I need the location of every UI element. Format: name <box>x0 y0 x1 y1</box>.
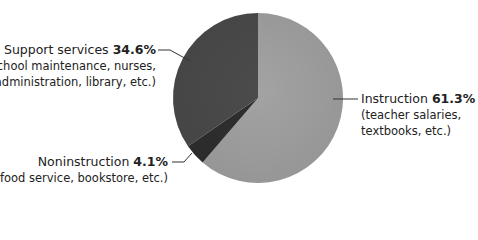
support-pct: 34.6% <box>113 42 156 57</box>
noninstruction-pct: 4.1% <box>133 154 168 169</box>
noninstruction-desc: (food service, bookstore, etc.) <box>0 170 168 186</box>
support-desc-1: (school maintenance, nurses, <box>0 58 156 74</box>
instruction-name: Instruction <box>361 91 428 106</box>
noninstruction-label: Noninstruction 4.1% (food service, books… <box>0 154 168 186</box>
noninstruction-leader-line <box>172 153 192 162</box>
support-desc-2: administration, library, etc.) <box>0 74 156 90</box>
support-name: Support services <box>4 42 109 57</box>
noninstruction-name: Noninstruction <box>38 154 130 169</box>
instruction-pct: 61.3% <box>432 91 475 106</box>
instruction-desc-1: (teacher salaries, <box>361 107 475 123</box>
instruction-label: Instruction 61.3% (teacher salaries, tex… <box>361 91 475 139</box>
instruction-desc-2: textbooks, etc.) <box>361 123 475 139</box>
support-services-label: Support services 34.6% (school maintenan… <box>0 42 156 90</box>
